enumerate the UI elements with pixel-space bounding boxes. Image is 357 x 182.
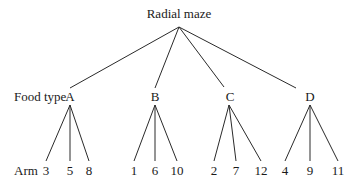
arm-node-3: 3 xyxy=(43,163,50,178)
arm-node-4: 4 xyxy=(282,163,289,178)
edge-a-to-arm-8 xyxy=(70,105,89,161)
arm-node-11: 11 xyxy=(332,163,345,178)
radial-maze-tree-diagram: Radial maze Food type Arm A358B1610C2712… xyxy=(0,0,357,182)
food-type-node-b: B xyxy=(151,89,160,104)
tree-nodes: A358B1610C2712D4911 xyxy=(43,89,345,178)
arm-node-6: 6 xyxy=(152,163,159,178)
edge-c-to-arm-2 xyxy=(214,105,229,161)
edge-root-to-d xyxy=(179,27,296,88)
edge-d-to-arm-11 xyxy=(310,105,338,161)
edge-b-to-arm-10 xyxy=(155,105,177,161)
food-type-node-c: C xyxy=(226,89,235,104)
edge-b-to-arm-1 xyxy=(134,105,155,161)
arm-node-9: 9 xyxy=(307,163,314,178)
edge-c-to-arm-12 xyxy=(229,105,261,161)
arm-level-label: Arm xyxy=(14,163,38,178)
arm-node-5: 5 xyxy=(67,163,74,178)
edge-a-to-arm-3 xyxy=(46,105,70,161)
root-node-label: Radial maze xyxy=(147,6,212,21)
food-type-node-a: A xyxy=(65,89,75,104)
edge-d-to-arm-4 xyxy=(285,105,310,161)
arm-node-12: 12 xyxy=(255,163,268,178)
tree-edges xyxy=(46,27,338,161)
arm-node-8: 8 xyxy=(86,163,93,178)
edge-c-to-arm-7 xyxy=(229,105,236,161)
arm-node-2: 2 xyxy=(211,163,218,178)
edge-root-to-c xyxy=(179,27,224,87)
arm-node-1: 1 xyxy=(131,163,138,178)
food-type-level-label: Food type xyxy=(14,89,67,104)
arm-node-10: 10 xyxy=(171,163,184,178)
arm-node-7: 7 xyxy=(233,163,240,178)
edge-root-to-a xyxy=(70,27,179,88)
food-type-node-d: D xyxy=(305,89,314,104)
edge-root-to-b xyxy=(155,27,179,88)
